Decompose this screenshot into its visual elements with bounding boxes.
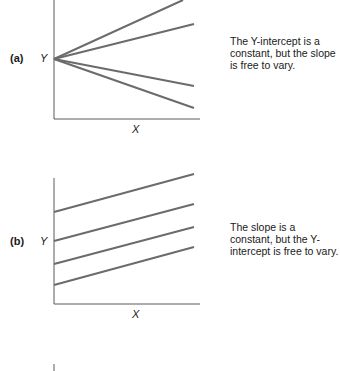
- panel-a-y-label: Y: [40, 52, 47, 64]
- panel-b-x-label: X: [132, 308, 139, 320]
- panel-b-caption: The slope is a constant, but the Y-inter…: [230, 221, 340, 257]
- regression-line: [54, 247, 194, 285]
- regression-line: [54, 0, 183, 59]
- panel-a-lines: [54, 0, 194, 108]
- panel-b-y-label: Y: [40, 235, 47, 247]
- regression-line: [54, 204, 194, 241]
- regression-line: [54, 59, 194, 108]
- regression-line: [54, 227, 194, 264]
- panel-a-x-label: X: [132, 123, 139, 135]
- regression-line: [54, 174, 194, 212]
- regression-line: [54, 59, 194, 86]
- panel-b-label: (b): [10, 235, 24, 247]
- panel-a-caption: The Y-intercept is a constant, but the s…: [230, 35, 340, 71]
- panel-b-lines: [54, 174, 194, 285]
- regression-line: [54, 24, 194, 59]
- panel-a-label: (a): [10, 52, 23, 64]
